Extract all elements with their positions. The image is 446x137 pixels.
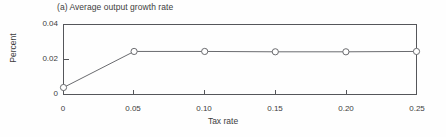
x-tick-marks [64, 90, 417, 95]
data-series-line [64, 51, 417, 87]
plot-area [0, 0, 446, 137]
axis-frame [63, 24, 417, 95]
data-point-marker [202, 48, 208, 54]
data-series-markers [60, 48, 419, 90]
data-point-marker [60, 84, 66, 90]
data-point-marker [131, 48, 137, 54]
figure-panel: (a) Average output growth rate Percent T… [0, 0, 446, 137]
data-point-marker [343, 49, 349, 55]
data-point-marker [413, 48, 419, 54]
data-point-marker [272, 49, 278, 55]
